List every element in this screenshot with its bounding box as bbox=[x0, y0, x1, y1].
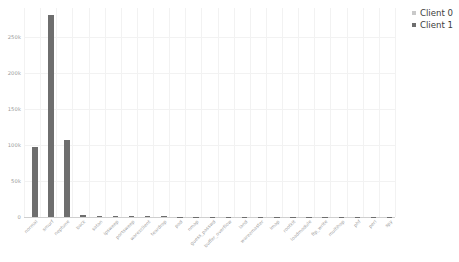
legend-label-client-1: Client 1 bbox=[420, 21, 453, 30]
bar-series-group bbox=[24, 8, 395, 217]
bar bbox=[371, 217, 377, 218]
y-tick-label: 100k bbox=[8, 142, 21, 148]
x-tick-label: normal bbox=[23, 219, 38, 234]
bar bbox=[210, 217, 216, 218]
bar bbox=[32, 147, 38, 217]
y-tick-label: 200k bbox=[8, 70, 21, 76]
legend-swatch-client-0 bbox=[412, 11, 416, 15]
gridline-vertical bbox=[395, 8, 396, 217]
y-tick-label: 0 bbox=[18, 214, 21, 220]
bar bbox=[226, 217, 232, 218]
bar bbox=[258, 217, 264, 218]
x-tick-label: imap bbox=[269, 219, 281, 231]
bar bbox=[177, 217, 183, 218]
bar bbox=[129, 216, 135, 217]
bar bbox=[113, 216, 119, 217]
bar-chart: 050k100k150k200k250k normalsmurfneptuneb… bbox=[0, 0, 459, 262]
x-tick-label: smurf bbox=[42, 219, 55, 232]
bar bbox=[161, 216, 167, 217]
x-tick-label: multihop bbox=[327, 219, 345, 237]
x-tick-label: perl bbox=[367, 219, 377, 229]
bar bbox=[322, 217, 328, 218]
legend-item-client-0[interactable]: Client 0 bbox=[412, 9, 453, 18]
x-tick-label: rootkit bbox=[282, 219, 296, 233]
x-tick-label: land bbox=[238, 219, 249, 230]
bar bbox=[306, 217, 312, 218]
y-tick-label: 150k bbox=[8, 106, 21, 112]
bar bbox=[355, 217, 361, 218]
bar bbox=[339, 217, 345, 218]
y-axis-tick-labels: 050k100k150k200k250k bbox=[0, 0, 21, 262]
bar bbox=[290, 217, 296, 218]
x-tick-label: neptune bbox=[54, 219, 71, 236]
x-tick-label: satan bbox=[90, 219, 103, 232]
x-tick-label: back bbox=[76, 219, 87, 230]
bar bbox=[97, 216, 103, 217]
y-tick-label: 50k bbox=[11, 178, 21, 184]
bar bbox=[387, 217, 393, 218]
bar bbox=[274, 217, 280, 218]
legend-item-client-1[interactable]: Client 1 bbox=[412, 21, 453, 30]
bar bbox=[80, 215, 86, 217]
x-tick-label: phf bbox=[352, 219, 361, 228]
chart-legend: Client 0 Client 1 bbox=[412, 9, 453, 29]
bar bbox=[145, 216, 151, 217]
x-tick-label: ftp_write bbox=[311, 219, 329, 237]
bar bbox=[242, 217, 248, 218]
x-axis-line bbox=[24, 217, 395, 218]
legend-label-client-0: Client 0 bbox=[420, 9, 453, 18]
bar bbox=[64, 140, 70, 217]
x-axis-tick-labels: normalsmurfneptunebacksatanipsweepportsw… bbox=[24, 219, 395, 262]
x-tick-label: teardrop bbox=[150, 219, 168, 237]
x-tick-label: nmap bbox=[187, 219, 200, 232]
x-tick-label: pod bbox=[174, 219, 184, 229]
bar bbox=[193, 217, 199, 218]
bar bbox=[48, 15, 54, 217]
legend-swatch-client-1 bbox=[412, 23, 416, 27]
x-tick-label: spy bbox=[384, 219, 393, 228]
y-tick-label: 250k bbox=[8, 34, 21, 40]
